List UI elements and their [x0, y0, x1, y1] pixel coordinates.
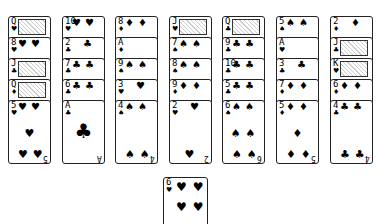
- hearts-icon: ♥: [279, 47, 285, 54]
- card-pips: ♣♣: [232, 39, 261, 49]
- face-card-portrait: [340, 40, 368, 56]
- diamonds-icon: ♦: [279, 110, 285, 117]
- card-pips: ♣♣: [72, 60, 101, 70]
- spades-icon: ♠: [172, 47, 178, 54]
- card-4-spades[interactable]: 4♠♠♠♠♠4: [115, 100, 158, 164]
- card-rank-inverted: 6: [257, 154, 262, 162]
- card-5-diamonds[interactable]: 5♦♦♦♦♦♦5: [276, 100, 319, 164]
- card-5-hearts[interactable]: 5♥♥♥♥♥♥5: [8, 100, 51, 164]
- card-2-hearts[interactable]: 2♥♥♥2: [169, 100, 212, 164]
- diamonds-icon: ♦: [11, 89, 17, 96]
- hearts-icon: ♥: [11, 110, 17, 117]
- card-pips: ♥♥: [18, 102, 47, 112]
- diamonds-icon: ♦: [172, 89, 178, 96]
- clubs-icon: ♣: [225, 89, 231, 96]
- card-pips: ♠♠: [125, 102, 154, 112]
- card-pips: ♠♠: [179, 60, 208, 70]
- clubs-icon: ♣: [65, 47, 71, 54]
- spades-icon: ♠: [118, 68, 124, 75]
- card-pips: ♣: [297, 60, 315, 70]
- clubs-icon: ♣: [225, 26, 231, 33]
- card-pips: ♥♥: [18, 39, 47, 49]
- clubs-icon: ♣: [225, 68, 231, 75]
- face-card-portrait: [18, 82, 46, 98]
- clubs-icon: ♣: [63, 119, 104, 143]
- diamonds-icon: ♦: [333, 26, 339, 33]
- face-card-portrait: [179, 19, 207, 35]
- hearts-icon: ♥: [172, 110, 178, 117]
- card-pips: ♥♥: [176, 182, 204, 192]
- clubs-icon: ♣: [65, 89, 71, 96]
- card-6-spades[interactable]: 6♠♠♠♠♠♠♠6: [222, 100, 265, 164]
- card-pips: ♥: [136, 81, 154, 91]
- dragged-card-6-hearts[interactable]: 6 ♥ ♥♥ ♥♥: [163, 177, 208, 224]
- card-suit-icon: ♥: [166, 187, 172, 194]
- card-pips: ♣♣: [232, 81, 261, 91]
- card-rank-inverted: 5: [43, 154, 48, 162]
- card-pips: ♥: [190, 102, 208, 112]
- card-pips: ♠♠: [223, 127, 264, 140]
- card-pips: ♠♠: [232, 149, 258, 160]
- card-pips: ♦♦: [286, 81, 315, 91]
- card-pips: ♠♠: [179, 39, 208, 49]
- clubs-icon: ♣: [333, 110, 339, 117]
- card-pips: ♥♥: [176, 202, 204, 212]
- clubs-icon: ♣: [333, 47, 339, 54]
- card-pips: ♣♣: [340, 149, 366, 160]
- card-rank-inverted: A: [97, 154, 102, 162]
- clubs-icon: ♣: [279, 68, 285, 75]
- card-pips: ♦: [351, 18, 369, 28]
- spades-icon: ♠: [118, 110, 124, 117]
- card-pips: ♠♠: [125, 149, 151, 160]
- card-pips: ♥: [9, 127, 50, 140]
- face-card-portrait: [232, 19, 260, 35]
- hearts-icon: ♥: [118, 89, 124, 96]
- face-card-portrait: [340, 61, 368, 77]
- card-pips: ♣♣: [340, 102, 369, 112]
- face-card-portrait: [18, 19, 46, 35]
- card-pips: ♦♦: [340, 81, 369, 91]
- card-pips: ♥: [179, 149, 205, 160]
- spades-icon: ♠: [279, 26, 285, 33]
- card-pips: ♥♥: [72, 18, 101, 28]
- clubs-icon: ♣: [65, 110, 71, 117]
- card-rank-inverted: 4: [365, 154, 370, 162]
- card-A-clubs[interactable]: A♣♣A: [62, 100, 105, 164]
- card-pips: ♦♦: [286, 149, 312, 160]
- card-pips: ♦♦: [179, 81, 208, 91]
- clubs-icon: ♣: [225, 47, 231, 54]
- card-pips: ♣: [83, 39, 101, 49]
- clubs-icon: ♣: [65, 68, 71, 75]
- card-rank-inverted: 2: [204, 154, 209, 162]
- card-rank-inverted: 4: [150, 154, 155, 162]
- card-pips: ♠♠: [286, 18, 315, 28]
- card-pips: ♠♠: [125, 60, 154, 70]
- diamonds-icon: ♦: [279, 89, 285, 96]
- card-pips: ♣♣: [232, 60, 261, 70]
- card-rank-inverted: 5: [311, 154, 316, 162]
- card-4-clubs[interactable]: 4♣♣♣♣♣4: [330, 100, 373, 164]
- diamonds-icon: ♦: [333, 89, 339, 96]
- clubs-icon: ♣: [11, 68, 17, 75]
- card-pips: ♥♥: [18, 149, 44, 160]
- diamonds-icon: ♦: [118, 26, 124, 33]
- hearts-icon: ♥: [333, 68, 339, 75]
- hearts-icon: ♥: [11, 47, 17, 54]
- face-card-portrait: [18, 61, 46, 77]
- card-pips: ♦♦: [125, 18, 154, 28]
- card-pips: ♣♣: [72, 81, 101, 91]
- card-pips: ♦♦: [286, 102, 315, 112]
- card-pips: ♠♠: [232, 102, 261, 112]
- spades-icon: ♠: [225, 110, 231, 117]
- card-pips: ♦: [277, 127, 318, 140]
- diamonds-icon: ♦: [118, 47, 124, 54]
- hearts-icon: ♥: [65, 26, 71, 33]
- hearts-icon: ♥: [11, 26, 17, 33]
- spades-icon: ♠: [172, 68, 178, 75]
- hearts-icon: ♥: [172, 26, 178, 33]
